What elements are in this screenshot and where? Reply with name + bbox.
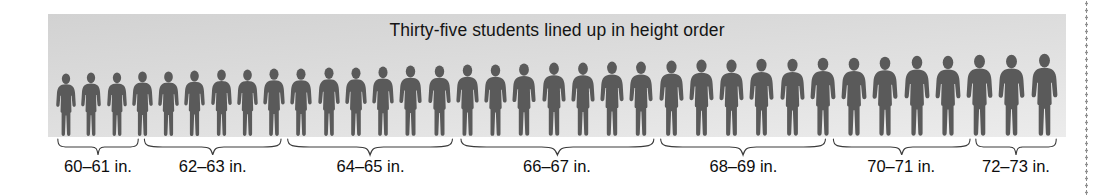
height-group: 72–73 in. bbox=[975, 137, 1057, 195]
curly-brace-icon bbox=[143, 137, 282, 157]
person-silhouette-icon bbox=[131, 71, 154, 137]
person-silhouette-icon bbox=[903, 55, 931, 137]
pictograph-panel: Thirty-five students lined up in height … bbox=[48, 14, 1066, 137]
group-label: 62–63 in. bbox=[143, 157, 282, 176]
person-silhouette-icon bbox=[483, 64, 508, 137]
person-silhouette-icon bbox=[80, 72, 102, 137]
curly-brace-icon bbox=[832, 137, 971, 157]
height-group: 62–63 in. bbox=[143, 137, 282, 195]
person-silhouette-icon bbox=[289, 68, 313, 137]
person-silhouette-icon bbox=[427, 65, 452, 137]
height-group: 70–71 in. bbox=[832, 137, 971, 195]
person-silhouette-icon bbox=[55, 73, 77, 137]
height-group: 68–69 in. bbox=[659, 137, 827, 195]
group-label: 72–73 in. bbox=[975, 157, 1057, 176]
height-order-pictograph: Thirty-five students lined up in height … bbox=[0, 0, 1115, 195]
person-silhouette-icon bbox=[398, 65, 423, 137]
person-silhouette-icon bbox=[210, 69, 233, 137]
person-silhouette-icon bbox=[840, 57, 868, 137]
group-label: 60–61 in. bbox=[57, 157, 139, 176]
person-silhouette-icon bbox=[183, 70, 206, 137]
height-group: 66–67 in. bbox=[459, 137, 656, 195]
person-silhouette-icon bbox=[511, 63, 537, 137]
person-silhouette-icon bbox=[236, 69, 259, 137]
group-label: 68–69 in. bbox=[659, 157, 827, 176]
person-silhouette-icon bbox=[658, 60, 685, 137]
person-silhouette-icon bbox=[541, 62, 567, 137]
group-axis: 60–61 in.62–63 in.64–65 in.66–67 in.68–6… bbox=[48, 137, 1066, 195]
person-silhouette-icon bbox=[748, 58, 775, 137]
person-silhouette-icon bbox=[934, 55, 962, 137]
group-label: 66–67 in. bbox=[459, 157, 656, 176]
curly-brace-icon bbox=[57, 137, 139, 157]
person-silhouette-icon bbox=[628, 61, 654, 137]
person-silhouette-icon bbox=[997, 54, 1026, 137]
group-label: 64–65 in. bbox=[286, 157, 454, 176]
height-group: 60–61 in. bbox=[57, 137, 139, 195]
people-row bbox=[55, 53, 1059, 137]
height-group: 64–65 in. bbox=[286, 137, 454, 195]
person-silhouette-icon bbox=[106, 72, 128, 137]
person-silhouette-icon bbox=[809, 57, 837, 137]
curly-brace-icon bbox=[459, 137, 656, 157]
person-silhouette-icon bbox=[871, 56, 899, 137]
person-silhouette-icon bbox=[965, 54, 994, 137]
person-silhouette-icon bbox=[262, 68, 286, 137]
person-silhouette-icon bbox=[599, 61, 625, 137]
person-silhouette-icon bbox=[371, 66, 395, 137]
curly-brace-icon bbox=[286, 137, 454, 157]
person-silhouette-icon bbox=[317, 67, 341, 137]
person-silhouette-icon bbox=[157, 71, 180, 137]
person-silhouette-icon bbox=[455, 64, 480, 137]
curly-brace-icon bbox=[659, 137, 827, 157]
person-silhouette-icon bbox=[570, 62, 596, 137]
person-silhouette-icon bbox=[779, 58, 806, 137]
person-silhouette-icon bbox=[718, 59, 745, 137]
person-silhouette-icon bbox=[1030, 53, 1059, 137]
page-title: Thirty-five students lined up in height … bbox=[48, 20, 1066, 41]
dotted-vertical-rule bbox=[1085, 0, 1088, 195]
curly-brace-icon bbox=[975, 137, 1057, 157]
person-silhouette-icon bbox=[344, 67, 368, 137]
group-label: 70–71 in. bbox=[832, 157, 971, 176]
person-silhouette-icon bbox=[688, 59, 715, 137]
